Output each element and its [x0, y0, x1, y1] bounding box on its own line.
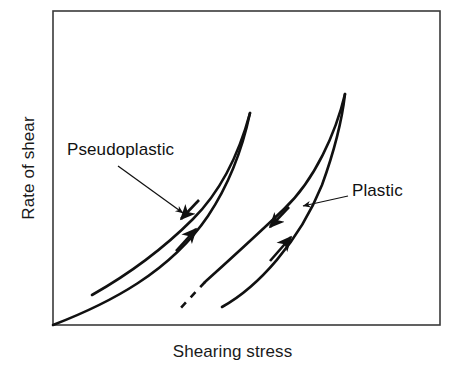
plastic-curve-group [177, 94, 345, 312]
x-axis-label: Shearing stress [0, 342, 465, 362]
plastic-downcurve-arrowhead [270, 207, 289, 227]
plastic-leader-line [303, 196, 348, 206]
pseudoplastic-leader-line [118, 166, 183, 213]
plastic-yield-extrapolation-dashed [177, 282, 205, 312]
plastic-label: Plastic [352, 181, 403, 201]
plot-frame [53, 11, 440, 325]
y-axis-label: Rate of shear [19, 93, 39, 243]
pseudoplastic-label: Pseudoplastic [67, 140, 174, 160]
